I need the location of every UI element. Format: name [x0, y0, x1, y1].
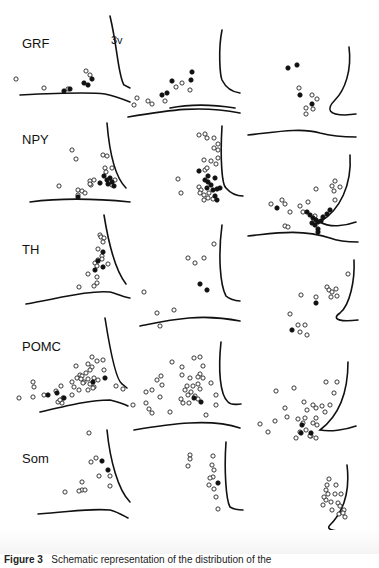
open-circle-cell	[286, 225, 290, 229]
open-circle-cell	[216, 148, 220, 152]
panel-floor-outline	[248, 130, 356, 137]
open-circle-cell	[179, 191, 183, 195]
open-circle-cell	[81, 381, 85, 385]
filled-circle-cell	[170, 79, 174, 83]
open-circle-cell	[283, 202, 287, 206]
open-circle-cell	[160, 383, 164, 387]
panel-wall-outline	[107, 430, 130, 502]
open-circle-cell	[183, 388, 187, 392]
open-circle-cell	[322, 495, 326, 499]
open-circle-cell	[334, 287, 338, 291]
filled-circle-cell	[300, 423, 304, 427]
page-text-background	[0, 530, 379, 554]
open-circle-cell	[114, 384, 118, 388]
open-circle-cell	[76, 188, 80, 192]
open-circle-cell	[303, 416, 307, 420]
open-circle-cell	[186, 393, 190, 397]
open-circle-cell	[92, 284, 96, 288]
filled-circle-cell	[295, 63, 299, 67]
filled-circle-cell	[325, 212, 329, 216]
open-circle-cell	[150, 411, 154, 415]
open-circle-cell	[101, 153, 105, 157]
open-circle-cell	[332, 189, 336, 193]
open-circle-cell	[328, 403, 332, 407]
panel-wall-outline	[105, 318, 127, 388]
open-circle-cell	[196, 375, 200, 379]
open-circle-cell	[209, 381, 213, 385]
open-circle-cell	[212, 487, 216, 491]
open-circle-cell	[324, 488, 328, 492]
panel-wall-outline	[329, 465, 356, 532]
open-circle-cell	[42, 86, 46, 90]
open-circle-cell	[102, 236, 106, 240]
open-circle-cell	[333, 198, 337, 202]
row-label-npy: NPY	[22, 132, 49, 147]
filled-circle-cell	[62, 89, 66, 93]
open-circle-cell	[83, 191, 87, 195]
panel-floor-outline	[140, 317, 240, 326]
open-circle-cell	[214, 393, 218, 397]
open-circle-cell	[280, 198, 284, 202]
open-circle-cell	[144, 390, 148, 394]
open-circle-cell	[323, 410, 327, 414]
filled-circle-cell	[213, 176, 217, 180]
filled-circle-cell	[209, 183, 213, 187]
caption-figure-number: Figure 3	[4, 554, 43, 565]
open-circle-cell	[296, 323, 300, 327]
open-circle-cell	[88, 182, 92, 186]
open-circle-cell	[14, 77, 18, 81]
filled-circle-cell	[299, 431, 303, 435]
open-circle-cell	[188, 88, 192, 92]
open-circle-cell	[205, 166, 209, 170]
filled-circle-cell	[190, 70, 194, 74]
open-circle-cell	[298, 330, 302, 334]
open-circle-cell	[172, 308, 176, 312]
filled-circle-cell	[316, 230, 320, 234]
panel-wall-outline	[221, 126, 243, 196]
open-circle-cell	[31, 380, 35, 384]
open-circle-cell	[330, 508, 334, 512]
open-circle-cell	[201, 376, 205, 380]
panel-wall-outline	[336, 260, 358, 321]
open-circle-cell	[202, 256, 206, 260]
filled-circle-cell	[216, 481, 220, 485]
open-circle-cell	[192, 356, 196, 360]
open-circle-cell	[150, 388, 154, 392]
panel-floor-outline	[30, 199, 130, 202]
open-circle-cell	[314, 436, 318, 440]
filled-circle-cell	[76, 195, 80, 199]
open-circle-cell	[304, 428, 308, 432]
panel-floor-outline	[38, 509, 128, 518]
filled-circle-cell	[165, 91, 169, 95]
open-circle-cell	[210, 463, 214, 467]
caption-text: Schematic representation of the distribu…	[51, 554, 271, 565]
open-circle-cell	[335, 380, 339, 384]
filled-circle-cell	[314, 301, 318, 305]
open-circle-cell	[77, 489, 81, 493]
open-circle-cell	[304, 106, 308, 110]
figure-caption: Figure 3 Schematic representation of the…	[4, 554, 379, 565]
open-circle-cell	[320, 404, 324, 408]
open-circle-cell	[299, 293, 303, 297]
filled-circle-cell	[62, 396, 66, 400]
open-circle-cell	[142, 290, 146, 294]
open-circle-cell	[86, 362, 90, 366]
filled-circle-cell	[100, 459, 104, 463]
open-circle-cell	[212, 146, 216, 150]
panel-wall-outline	[220, 30, 240, 93]
filled-circle-cell	[286, 66, 290, 70]
filled-circle-cell	[205, 288, 209, 292]
open-circle-cell	[337, 512, 341, 516]
open-circle-cell	[258, 422, 262, 426]
open-circle-cell	[91, 386, 95, 390]
open-circle-cell	[214, 403, 218, 407]
open-circle-cell	[285, 415, 289, 419]
open-circle-cell	[206, 196, 210, 200]
open-circle-cell	[84, 69, 88, 73]
open-circle-cell	[315, 423, 319, 427]
figure-canvas	[0, 0, 379, 568]
open-circle-cell	[185, 384, 189, 388]
open-circle-cell	[158, 324, 162, 328]
open-circle-cell	[180, 81, 184, 85]
open-circle-cell	[306, 200, 310, 204]
